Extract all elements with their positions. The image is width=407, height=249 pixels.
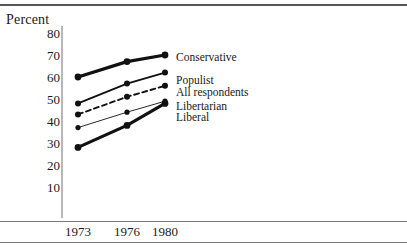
data-point [124,58,131,65]
data-point [162,52,169,59]
legend-label-liberal: Liberal [176,111,209,123]
axis-divider-rule-top [0,221,407,222]
data-point [124,122,131,129]
axis-divider-rule-bottom [0,242,407,243]
data-point [75,125,80,130]
x-tick-1976: 1976 [114,224,140,240]
x-tick-1980: 1980 [152,224,178,240]
data-point [75,100,81,106]
legend-label-populist: Populist [176,74,214,86]
data-point [162,70,168,76]
data-point [75,144,82,151]
series-all-respondents [75,83,168,118]
data-point [75,74,82,81]
x-axis-tick-labels: 197319761980 [62,224,242,242]
series-legend: ConservativePopulistAll respondentsLiber… [176,24,326,144]
figure-container: Percent 8070605040302010 197319761980 Co… [0,0,407,249]
legend-label-conservative: Conservative [176,51,237,63]
top-divider-rule [0,4,407,6]
series-libertarian [75,99,167,131]
data-point [124,94,130,100]
series-line [78,101,165,127]
legend-label-all-respondents: All respondents [176,86,249,98]
x-tick-1973: 1973 [65,224,91,240]
series-line [78,55,165,77]
data-point [75,111,81,117]
data-point [124,81,130,87]
series-liberal [75,100,169,151]
data-point [124,110,129,115]
data-point [162,100,169,107]
data-point [162,83,168,89]
